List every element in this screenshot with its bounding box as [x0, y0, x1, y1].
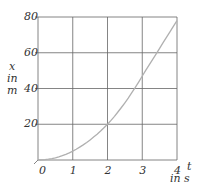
svg-text:2: 2: [104, 164, 112, 177]
chart: 01234 20406080 x in m t in s: [0, 0, 200, 192]
svg-text:1: 1: [70, 164, 77, 177]
grid: [34, 17, 177, 164]
svg-text:40: 40: [23, 82, 38, 95]
svg-text:20: 20: [23, 117, 38, 130]
svg-text:80: 80: [24, 10, 38, 23]
svg-text:60: 60: [24, 46, 38, 59]
plot-area: 01234 20406080 x in m t in s: [0, 0, 200, 192]
y-axis-label-line3: m: [7, 84, 17, 97]
y-tick-labels: 20406080: [23, 10, 38, 130]
x-axis-label-line2: in s: [170, 172, 190, 185]
x-tick-labels: 01234: [39, 164, 181, 177]
svg-text:0: 0: [39, 164, 46, 177]
svg-text:3: 3: [139, 164, 146, 177]
